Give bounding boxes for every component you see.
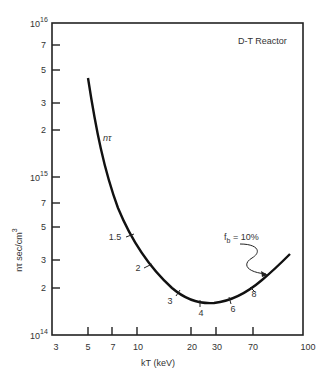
fb-marker-labels: 1.5 2 3 4 6 8 xyxy=(109,232,257,318)
marker-label: 3 xyxy=(167,296,172,306)
x-tick-label: 7 xyxy=(110,342,115,352)
x-axis-ticks xyxy=(88,327,253,335)
fb-annotation: fb = 10% xyxy=(224,232,259,244)
x-tick-labels: 3 5 7 10 20 30 70 100 xyxy=(53,342,315,352)
y-tick-label: 5 xyxy=(41,65,46,75)
chart: 7 5 3 2 7 5 3 2 1016 1015 1014 3 5 7 10 … xyxy=(0,0,328,380)
x-tick-label: 10 xyxy=(133,342,143,352)
ntau-curve xyxy=(88,78,290,303)
y-tick-label: 2 xyxy=(41,283,46,293)
marker-label: 8 xyxy=(251,289,256,299)
marker-label: 1.5 xyxy=(109,232,122,242)
y-tick-label: 2 xyxy=(41,125,46,135)
x-tick-label: 5 xyxy=(85,342,90,352)
x-tick-label: 70 xyxy=(248,342,258,352)
y-tick-label: 7 xyxy=(41,40,46,50)
y-tick-label: 3 xyxy=(41,98,46,108)
decade-14: 1014 xyxy=(30,328,48,341)
decade-16: 1016 xyxy=(30,16,48,29)
y-tick-label: 5 xyxy=(41,222,46,232)
marker-label: 2 xyxy=(135,263,140,273)
y-tick-label: 3 xyxy=(41,255,46,265)
x-tick-label: 30 xyxy=(212,342,222,352)
x-tick-label: 3 xyxy=(53,342,58,352)
plot-frame xyxy=(52,23,303,335)
x-tick-label: 100 xyxy=(300,342,315,352)
y-tick-label: 7 xyxy=(41,198,46,208)
marker-label: 6 xyxy=(230,304,235,314)
y-tick-labels: 7 5 3 2 7 5 3 2 xyxy=(41,40,46,293)
marker-label: 4 xyxy=(198,308,203,318)
fb-arrow xyxy=(240,244,266,274)
y-axis-ticks xyxy=(52,45,60,288)
x-tick-label: 20 xyxy=(187,342,197,352)
chart-title: D-T Reactor xyxy=(238,36,287,46)
y-axis-title: nτ sec/cm3 xyxy=(11,228,24,272)
decade-15: 1015 xyxy=(30,170,48,183)
x-axis-title: kT (keV) xyxy=(141,358,175,368)
curve-label: nτ xyxy=(103,133,112,143)
